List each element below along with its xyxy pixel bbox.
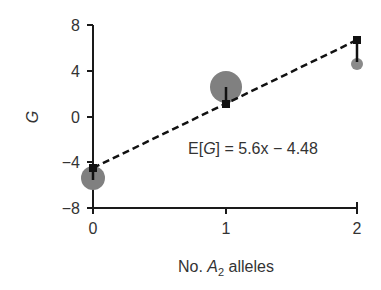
svg-text:4: 4 <box>71 63 80 80</box>
svg-text:0: 0 <box>89 220 98 237</box>
x-axis-label: No. A2 alleles <box>178 258 274 278</box>
residual-lines <box>93 40 357 180</box>
regression-equation: E[G] = 5.6x − 4.48 <box>188 140 318 157</box>
svg-text:2: 2 <box>353 220 362 237</box>
svg-text:1: 1 <box>222 220 231 237</box>
svg-text:−8: −8 <box>62 200 80 217</box>
y-axis-label: G <box>24 111 41 123</box>
genotype-circles <box>81 58 363 190</box>
svg-text:0: 0 <box>71 109 80 126</box>
svg-text:−4: −4 <box>62 154 80 171</box>
y-tick-labels: 8 4 0 −4 −8 <box>62 17 80 217</box>
regression-chart: 8 4 0 −4 −8 0 1 2 G No. A2 alleles E[G] <box>0 0 381 290</box>
svg-text:8: 8 <box>71 17 80 34</box>
x-tick-labels: 0 1 2 <box>89 220 362 237</box>
